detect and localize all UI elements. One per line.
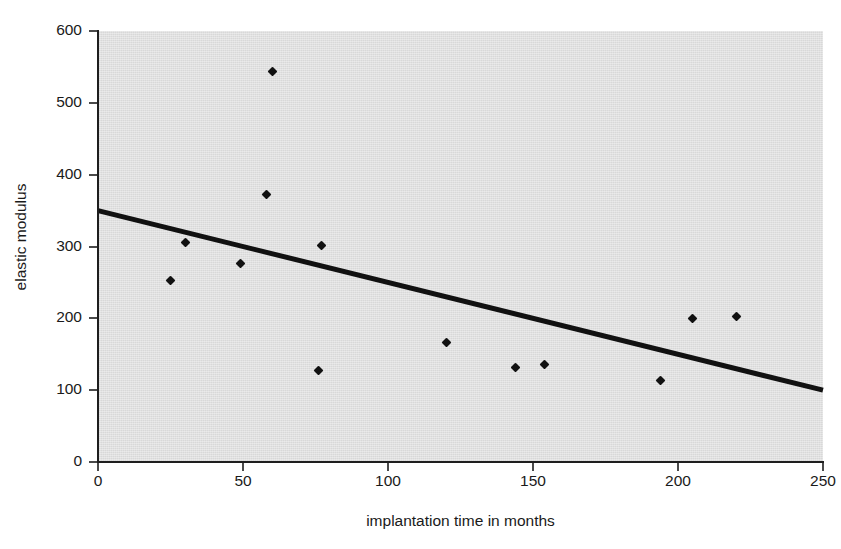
- y-tick-mark: [89, 246, 97, 248]
- clipped-title-strip: [0, 0, 841, 10]
- scatter-chart: elastic modulus 0100200300400500600 0501…: [0, 0, 841, 549]
- x-tick-mark: [822, 463, 824, 471]
- y-tick-mark: [89, 317, 97, 319]
- x-axis-line: [97, 461, 824, 463]
- y-tick-label: 100: [24, 380, 82, 398]
- x-tick-mark: [242, 463, 244, 471]
- y-axis-line: [97, 30, 99, 463]
- y-tick-mark: [89, 461, 97, 463]
- x-tick-label: 50: [208, 472, 278, 490]
- x-tick-label: 150: [498, 472, 568, 490]
- x-axis-title: implantation time in months: [98, 512, 823, 530]
- x-tick-mark: [387, 463, 389, 471]
- y-tick-mark: [89, 30, 97, 32]
- plot-overlay: [98, 31, 823, 462]
- x-tick-label: 0: [63, 472, 133, 490]
- y-tick-mark: [89, 102, 97, 104]
- y-tick-mark: [89, 174, 97, 176]
- y-tick-mark: [89, 389, 97, 391]
- y-tick-label: 400: [24, 165, 82, 183]
- y-tick-label: 300: [24, 237, 82, 255]
- x-tick-mark: [97, 463, 99, 471]
- x-tick-label: 100: [353, 472, 423, 490]
- x-tick-mark: [532, 463, 534, 471]
- x-tick-label: 200: [643, 472, 713, 490]
- x-tick-label: 250: [788, 472, 841, 490]
- y-tick-label: 500: [24, 93, 82, 111]
- y-tick-label: 0: [24, 452, 82, 470]
- y-tick-label: 200: [24, 308, 82, 326]
- plot-area: [98, 31, 823, 462]
- trendline: [98, 211, 823, 391]
- y-tick-label: 600: [24, 21, 82, 39]
- x-tick-mark: [677, 463, 679, 471]
